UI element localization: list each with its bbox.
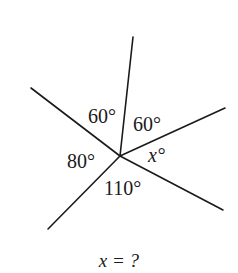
angle-label-top-right: 60° — [133, 114, 161, 134]
angle-label-left: 80° — [67, 151, 95, 171]
angle-diagram — [0, 0, 238, 273]
angle-label-top-left: 60° — [88, 106, 116, 126]
ray-top — [120, 37, 133, 156]
question-text: x = ? — [0, 251, 238, 270]
angle-label-right: x° — [148, 145, 165, 165]
angle-label-bottom: 110° — [104, 178, 141, 198]
